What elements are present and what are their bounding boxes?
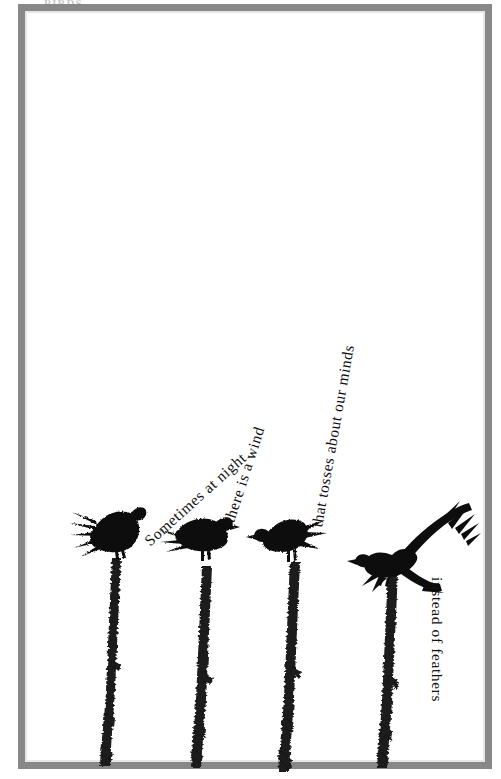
page-paper-field: [25, 11, 485, 762]
scanned-page: BIRDS: [0, 0, 501, 779]
poem-line-4: instead of feathers: [428, 577, 446, 702]
